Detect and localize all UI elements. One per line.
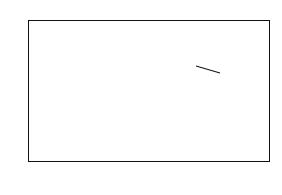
latin-america-leader-line bbox=[196, 64, 222, 74]
y-axis bbox=[0, 0, 28, 195]
stacked-area-plot bbox=[29, 21, 268, 160]
plot-area bbox=[28, 20, 270, 162]
chart-figure bbox=[0, 0, 282, 195]
